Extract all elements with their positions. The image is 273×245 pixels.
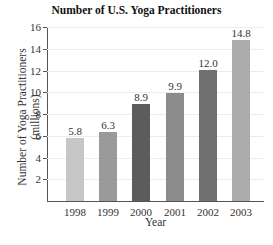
y-tick: [43, 158, 47, 159]
bar-2001: [166, 93, 184, 201]
bar-value-label: 14.8: [226, 27, 256, 39]
y-tick: [43, 136, 47, 137]
x-axis: [47, 201, 264, 202]
bar-2000: [132, 104, 150, 201]
y-tick-label: 16: [21, 21, 41, 33]
y-tick: [43, 92, 47, 93]
bar-value-label: 9.9: [160, 80, 190, 92]
y-tick-label: 12: [21, 65, 41, 77]
y-tick: [43, 114, 47, 115]
bar-2002: [199, 70, 217, 201]
y-tick-label: 4: [21, 152, 41, 164]
y-tick: [43, 71, 47, 72]
y-tick: [43, 49, 47, 50]
chart-title: Number of U.S. Yoga Practitioners: [0, 4, 273, 16]
y-tick-label: 14: [21, 43, 41, 55]
y-tick: [43, 179, 47, 180]
bar-value-label: 8.9: [126, 91, 156, 103]
y-tick-label: 6: [21, 130, 41, 142]
bar-value-label: 12.0: [193, 57, 223, 69]
bar-value-label: 6.3: [93, 119, 123, 131]
x-axis-label: Year: [47, 216, 264, 228]
bar-2003: [232, 40, 250, 201]
bar-1998: [66, 138, 84, 201]
plot-area: 2468101214165.819986.319998.920009.92001…: [47, 27, 264, 201]
y-tick-label: 8: [21, 108, 41, 120]
bar-value-label: 5.8: [60, 125, 90, 137]
y-tick-label: 10: [21, 86, 41, 98]
y-tick-label: 2: [21, 173, 41, 185]
y-tick: [43, 27, 47, 28]
bar-1999: [99, 132, 117, 201]
